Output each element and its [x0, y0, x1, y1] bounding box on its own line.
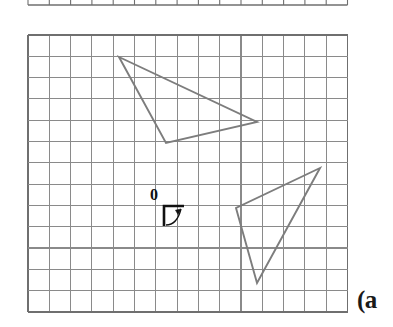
- origin-label: 0: [150, 187, 158, 203]
- figure-root: 0 (a: [0, 0, 393, 327]
- geometry-figure-svg: [0, 0, 393, 327]
- figure-background: [0, 0, 393, 327]
- part-label: (a: [357, 286, 377, 312]
